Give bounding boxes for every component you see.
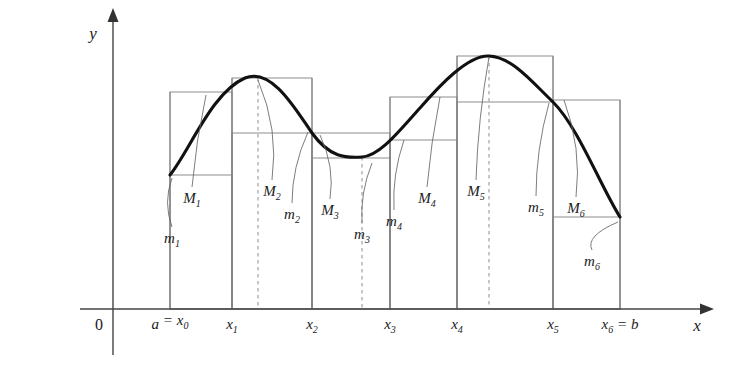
x-tick-label-x1: x1 xyxy=(225,316,238,335)
dashed-verticals-group xyxy=(258,56,489,309)
leader-line-M5 xyxy=(476,57,489,180)
lower-rectangle-3 xyxy=(312,158,390,309)
x-tick-label-x4: x4 xyxy=(450,316,463,335)
infimum-labels-group: m1m2m3m4m5m6 xyxy=(164,199,600,272)
upper-rectangle-3 xyxy=(312,133,390,309)
x-axis-label: x xyxy=(692,316,701,335)
leader-line-M2 xyxy=(258,80,274,180)
x-tick-label-x6: x6 = b xyxy=(601,316,639,335)
supremum-label-M3: M3 xyxy=(320,202,339,221)
supremum-label-M2: M2 xyxy=(262,183,281,202)
leader-line-m5 xyxy=(536,103,549,196)
supremum-label-M6: M6 xyxy=(566,200,585,219)
supremum-label-M4: M4 xyxy=(417,190,436,209)
figure-canvas: y x 0 a = x0x1x2x3x4x5x6 = b M1M2M3M4M5M… xyxy=(0,0,735,380)
x-tick-label-x5: x5 xyxy=(546,316,559,335)
supremum-label-M5: M5 xyxy=(466,183,485,202)
leader-line-M4 xyxy=(427,97,440,187)
x-tick-label-x3: x3 xyxy=(383,316,396,335)
axes-group xyxy=(80,8,714,355)
darboux-sum-diagram: y x 0 a = x0x1x2x3x4x5x6 = b M1M2M3M4M5M… xyxy=(0,0,735,380)
supremum-label-M1: M1 xyxy=(182,190,201,209)
leader-line-m3 xyxy=(362,163,372,223)
leader-line-M1 xyxy=(192,95,206,187)
upper-rectangle-6 xyxy=(553,100,620,309)
x-tick-label-x0: a = x0 xyxy=(152,312,189,332)
y-axis-arrowhead xyxy=(108,8,119,22)
lower-rectangle-2 xyxy=(232,133,312,309)
leader-line-m6 xyxy=(591,222,618,250)
leader-line-M6 xyxy=(564,100,578,197)
x-tick-label-x2: x2 xyxy=(305,316,318,335)
infimum-label-m4: m4 xyxy=(386,213,402,232)
leader-line-m4 xyxy=(394,140,404,210)
origin-label: 0 xyxy=(95,316,103,333)
infimum-label-m2: m2 xyxy=(284,206,300,225)
infimum-label-m6: m6 xyxy=(584,253,600,272)
infimum-label-m5: m5 xyxy=(528,199,544,218)
x-axis-arrowhead xyxy=(700,304,714,315)
infimum-label-m1: m1 xyxy=(164,230,180,249)
x-tick-labels-group: a = x0x1x2x3x4x5x6 = b xyxy=(152,312,639,335)
y-axis-label: y xyxy=(87,24,97,43)
supremum-labels-group: M1M2M3M4M5M6 xyxy=(182,183,585,221)
leader-line-m2 xyxy=(292,132,308,203)
